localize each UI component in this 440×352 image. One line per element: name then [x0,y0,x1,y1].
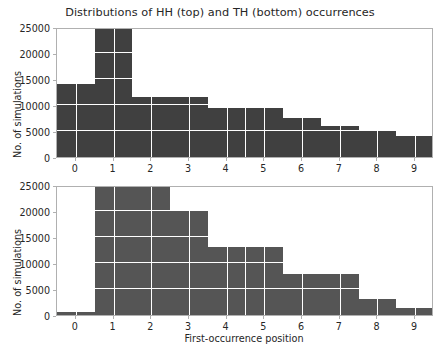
y-tick-label: 5000 [26,285,50,296]
x-tick-mark [339,316,340,319]
x-tick-mark [263,316,264,319]
y-tick-label: 20000 [19,207,50,218]
y-tick-mark [53,316,56,317]
x-tick-label: 5 [260,321,266,332]
bottom-x-axis-label: First-occurrence position [184,333,303,344]
x-tick-mark [75,316,76,319]
chart-title: Distributions of HH (top) and TH (bottom… [0,6,440,19]
gridline-vertical [302,187,303,315]
x-tick-label: 3 [185,163,191,174]
gridline-vertical [189,29,190,157]
gridline-vertical [227,187,228,315]
gridline-vertical [415,29,416,157]
gridline-vertical [340,29,341,157]
x-tick-mark [414,158,415,161]
x-tick-label: 5 [260,163,266,174]
x-tick-mark [75,158,76,161]
bottom-subplot-axes [56,186,433,316]
x-tick-mark [226,316,227,319]
x-tick-label: 1 [109,321,115,332]
x-tick-mark [339,158,340,161]
gridline-vertical [415,187,416,315]
y-tick-mark [53,290,56,291]
x-tick-label: 4 [223,321,229,332]
gridline-vertical [151,187,152,315]
y-tick-mark [53,106,56,107]
top-y-axis-label: No. of simulations [12,71,23,158]
figure-canvas: Distributions of HH (top) and TH (bottom… [0,0,440,352]
x-tick-label: 0 [72,321,78,332]
y-tick-label: 10000 [19,101,50,112]
gridline-vertical [114,29,115,157]
x-tick-label: 9 [411,321,417,332]
x-tick-mark [150,158,151,161]
y-tick-mark [53,186,56,187]
y-tick-mark [53,80,56,81]
y-tick-mark [53,238,56,239]
y-tick-label: 10000 [19,259,50,270]
x-tick-mark [113,158,114,161]
gridline-vertical [377,187,378,315]
x-tick-mark [188,158,189,161]
bottom-plot-surface [57,187,432,315]
y-tick-label: 20000 [19,49,50,60]
y-tick-label: 15000 [19,233,50,244]
y-tick-mark [53,158,56,159]
y-tick-label: 15000 [19,75,50,86]
x-tick-mark [113,316,114,319]
x-tick-mark [150,316,151,319]
y-tick-mark [53,212,56,213]
y-tick-mark [53,28,56,29]
x-tick-label: 8 [373,163,379,174]
bottom-y-axis-label: No. of simulations [12,229,23,316]
y-tick-label: 0 [44,311,50,322]
x-tick-label: 7 [336,163,342,174]
gridline-vertical [340,187,341,315]
x-tick-label: 9 [411,163,417,174]
x-tick-label: 1 [109,163,115,174]
x-tick-mark [263,158,264,161]
x-tick-mark [414,316,415,319]
gridline-vertical [114,187,115,315]
gridline-vertical [302,29,303,157]
gridline-vertical [76,29,77,157]
x-tick-label: 7 [336,321,342,332]
y-tick-label: 0 [44,153,50,164]
x-tick-label: 3 [185,321,191,332]
gridline-vertical [227,29,228,157]
gridline-vertical [377,29,378,157]
top-subplot-axes [56,28,433,158]
x-tick-label: 0 [72,163,78,174]
gridline-vertical [189,187,190,315]
gridline-vertical [76,187,77,315]
gridline-vertical [151,29,152,157]
x-tick-mark [226,158,227,161]
y-tick-label: 5000 [26,127,50,138]
x-tick-label: 6 [298,163,304,174]
x-tick-mark [376,316,377,319]
x-tick-label: 4 [223,163,229,174]
x-tick-mark [376,158,377,161]
x-tick-mark [188,316,189,319]
x-tick-label: 2 [147,321,153,332]
y-tick-label: 25000 [19,23,50,34]
x-tick-mark [301,158,302,161]
x-tick-label: 6 [298,321,304,332]
x-tick-label: 8 [373,321,379,332]
y-tick-mark [53,54,56,55]
gridline-vertical [264,29,265,157]
top-plot-surface [57,29,432,157]
x-tick-mark [301,316,302,319]
y-tick-mark [53,132,56,133]
y-tick-mark [53,264,56,265]
x-tick-label: 2 [147,163,153,174]
y-tick-label: 25000 [19,181,50,192]
gridline-vertical [264,187,265,315]
